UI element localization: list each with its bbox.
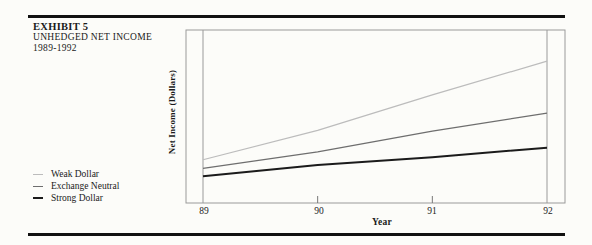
x-tick-label-92: 92	[543, 206, 553, 216]
x-tick-label-89: 89	[199, 206, 209, 216]
line-chart-plot	[0, 0, 592, 245]
x-tick-label-90: 90	[314, 206, 324, 216]
legend-label: Exchange Neutral	[51, 181, 119, 191]
legend-item-strong-dollar: Strong Dollar	[33, 192, 119, 204]
x-tick-label-91: 91	[427, 206, 437, 216]
chart-legend: Weak Dollar Exchange Neutral Strong Doll…	[33, 168, 119, 204]
legend-item-weak-dollar: Weak Dollar	[33, 168, 119, 180]
legend-label: Strong Dollar	[51, 193, 103, 203]
x-axis-label: Year	[372, 217, 392, 227]
legend-item-exchange-neutral: Exchange Neutral	[33, 180, 119, 192]
exchange-neutral-line-swatch	[33, 186, 43, 187]
strong-dollar-line-swatch	[33, 197, 43, 199]
legend-label: Weak Dollar	[51, 169, 99, 179]
y-axis-label: Net Income (Dollars)	[167, 70, 177, 154]
bottom-rule	[28, 233, 565, 236]
weak-dollar-line-swatch	[33, 174, 43, 175]
exhibit-page: EXHIBIT 5 UNHEDGED NET INCOME 1989-1992 …	[0, 0, 592, 245]
